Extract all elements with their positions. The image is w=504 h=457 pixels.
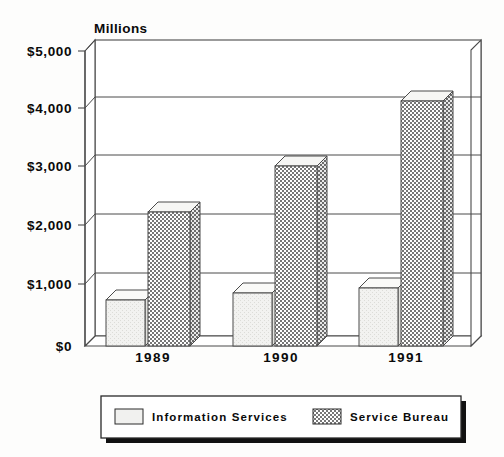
bar-side-face (190, 202, 200, 346)
legend-item-information-services[interactable]: Information Services (115, 409, 288, 424)
y-tick-label-3000: $3,000 (27, 159, 72, 174)
y-tick-label-2000: $2,000 (27, 218, 72, 233)
bar-1989-service-bureau[interactable] (148, 202, 200, 346)
legend-swatch-hatched-icon (313, 409, 341, 424)
bar-front-face (148, 212, 190, 346)
x-tick-label-1990: 1990 (263, 350, 299, 365)
legend-label-service-bureau: Service Bureau (350, 411, 449, 423)
bar-chart-figure: Millions $5,000 $4,000 $3,000 $2,000 $1,… (0, 0, 504, 457)
y-tick-label-1000: $1,000 (27, 277, 72, 292)
y-tick-label-0: $0 (56, 339, 72, 354)
bar-side-face (443, 91, 453, 346)
plot-left-wall (85, 40, 95, 346)
bar-front-face (106, 300, 145, 346)
legend-label-information-services: Information Services (152, 411, 288, 423)
bar-front-face (401, 101, 443, 346)
legend-item-service-bureau[interactable]: Service Bureau (313, 409, 449, 424)
bar-front-face (275, 166, 317, 346)
chart-canvas: Millions $5,000 $4,000 $3,000 $2,000 $1,… (0, 0, 504, 457)
chart-legend: Information Services Service Bureau (101, 396, 466, 443)
y-tick-label-5000: $5,000 (27, 44, 72, 59)
plot-right-wall (471, 40, 481, 346)
legend-swatch-light-icon (115, 409, 143, 424)
bar-front-face (233, 293, 272, 346)
y-tick-label-4000: $4,000 (27, 101, 72, 116)
bar-1990-service-bureau[interactable] (275, 156, 327, 346)
bar-1991-service-bureau[interactable] (401, 91, 453, 346)
bar-side-face (317, 156, 327, 346)
bar-front-face (359, 288, 398, 346)
x-tick-label-1989: 1989 (135, 350, 171, 365)
x-tick-label-1991: 1991 (388, 350, 424, 365)
y-axis-ticks (78, 51, 85, 284)
axis-units-note: Millions (94, 21, 147, 36)
